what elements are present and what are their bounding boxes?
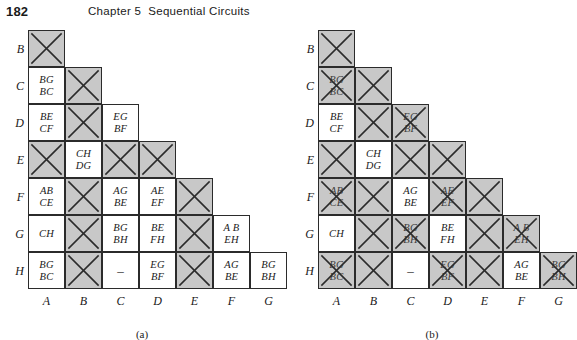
cross-out-icon [356, 253, 391, 288]
row-label-e: E [6, 154, 24, 166]
cross-out-icon [66, 216, 101, 251]
cross-out-icon [140, 142, 175, 177]
cell-pair-line: BE [514, 271, 528, 283]
chart-cell-hb [65, 252, 102, 289]
cell-pair-line: AE [151, 185, 164, 197]
chart-cell-hc: – [102, 252, 139, 289]
cell-pair-line: EG [150, 259, 164, 271]
cross-out-icon [319, 179, 354, 214]
cell-pair-line: AG [403, 185, 417, 197]
cell-pair-text: ABCE [40, 185, 54, 208]
column-label-d: D [429, 295, 466, 307]
cell-pair-line: FH [440, 234, 454, 246]
cell-pair-line: BE [150, 222, 164, 234]
cell-pair-text: BGBC [39, 259, 53, 282]
cross-out-icon [393, 142, 428, 177]
cross-out-icon [29, 142, 64, 177]
cell-pair-line: FH [150, 234, 164, 246]
column-label-e: E [176, 295, 213, 307]
chart-cell-gf: A BEH [503, 215, 540, 252]
column-label-b: B [355, 295, 392, 307]
chart-cell-gb [355, 215, 392, 252]
cell-pair-line: BG [261, 259, 275, 271]
chart-cell-db [65, 104, 102, 141]
chart-cell-ed [429, 141, 466, 178]
cross-out-icon [356, 105, 391, 140]
cross-out-icon [177, 253, 212, 288]
cell-pair-line: EG [113, 111, 127, 123]
figure-caption-b: (b) [296, 328, 568, 340]
cell-pair-text: CHDG [76, 148, 92, 171]
cross-out-icon [66, 105, 101, 140]
cross-out-icon [504, 216, 539, 251]
chart-grid-b: BCBGBCDBECFEGBFECHDGFABCEAGBEAEEFGCHBGBH… [296, 26, 568, 290]
column-label-a: A [318, 295, 355, 307]
chart-cell-he [466, 252, 503, 289]
chart-cell-fe [466, 178, 503, 215]
cell-pair-line: BE [224, 271, 238, 283]
chart-cell-ed [139, 141, 176, 178]
cell-pair-line: CF [40, 123, 54, 135]
row-label-c: C [296, 80, 314, 92]
row-label-d: D [6, 117, 24, 129]
column-label-a: A [28, 295, 65, 307]
chart-cell-dc: EGBF [102, 104, 139, 141]
chart-cell-hf: AGBE [213, 252, 250, 289]
cell-pair-line: BE [403, 197, 417, 209]
chart-cell-gc: BGBH [102, 215, 139, 252]
cell-pair-line: CH [366, 148, 382, 160]
cell-pair-text: CH [39, 228, 54, 240]
chapter-title: Chapter 5Sequential Circuits [88, 5, 250, 17]
row-label-b: B [6, 43, 24, 55]
cell-pair-line: A B [224, 222, 240, 234]
cell-pair-line: CE [40, 197, 54, 209]
column-label-f: F [503, 295, 540, 307]
column-label-f: F [213, 295, 250, 307]
chart-cell-ca: BGBC [318, 67, 355, 104]
chart-cell-ga: CH [28, 215, 65, 252]
cell-pair-line: BC [39, 271, 53, 283]
chart-cell-gf: A BEH [213, 215, 250, 252]
cell-pair-text: BECF [330, 111, 344, 134]
cell-dash: – [117, 264, 124, 277]
cell-pair-line: BE [40, 111, 54, 123]
chart-cell-gb [65, 215, 102, 252]
cross-out-icon [356, 179, 391, 214]
chart-cell-fd: AEEF [429, 178, 466, 215]
cross-out-icon [66, 68, 101, 103]
chart-cell-hg: BGBH [540, 252, 577, 289]
chart-cell-eb: CHDG [355, 141, 392, 178]
cell-pair-text: CHDG [366, 148, 382, 171]
chart-grid-a: BCBGBCDBECFEGBFECHDGFABCEAGBEAEEFGCHBGBH… [6, 26, 278, 290]
cross-out-icon [430, 179, 465, 214]
running-head: 182 Chapter 5Sequential Circuits [0, 4, 576, 24]
cell-pair-line: BC [39, 86, 53, 98]
cell-pair-line: BF [150, 271, 164, 283]
cell-pair-line: BF [113, 123, 127, 135]
cell-pair-text: EGBF [113, 111, 127, 134]
cell-pair-line: BH [261, 271, 275, 283]
chart-cell-fb [355, 178, 392, 215]
chart-cell-fc: AGBE [392, 178, 429, 215]
cell-pair-text: BECF [40, 111, 54, 134]
cross-out-icon [319, 31, 354, 66]
cell-pair-line: CH [76, 148, 92, 160]
cell-dash: – [407, 264, 414, 277]
chart-cell-ga: CH [318, 215, 355, 252]
cell-pair-text: BGBC [39, 74, 53, 97]
cell-pair-text: AGBE [113, 185, 127, 208]
cell-pair-line: BG [39, 259, 53, 271]
cell-pair-line: AB [40, 185, 54, 197]
row-label-d: D [296, 117, 314, 129]
chart-cell-ea [318, 141, 355, 178]
cell-pair-line: BE [330, 111, 344, 123]
chart-cell-ha: BGBC [28, 252, 65, 289]
page-number: 182 [6, 4, 28, 19]
column-label-c: C [102, 295, 139, 307]
implication-chart-a: BCBGBCDBECFEGBFECHDGFABCEAGBEAEEFGCHBGBH… [6, 26, 278, 290]
chart-cell-eb: CHDG [65, 141, 102, 178]
cross-out-icon [467, 179, 502, 214]
chart-cell-gd: BEFH [139, 215, 176, 252]
cross-out-icon [393, 216, 428, 251]
cross-out-icon [356, 68, 391, 103]
